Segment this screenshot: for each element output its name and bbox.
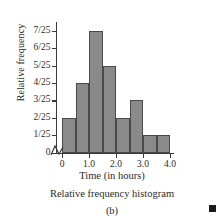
x-tick-mark [89, 153, 90, 158]
x-axis-title: Time (in hours) [0, 170, 224, 181]
figure-caption: Relative frequency histogram [0, 188, 224, 199]
y-tick-label: 4/25 [34, 78, 51, 88]
y-tick-label: 1/25 [34, 130, 51, 140]
histogram-bar [76, 83, 90, 153]
histogram-bar [130, 100, 144, 152]
y-tick-label: 2/25 [34, 113, 51, 123]
y-tick-mark [52, 66, 57, 67]
y-tick-label: 3/25 [34, 96, 51, 106]
x-tick-label: 3.0 [137, 160, 149, 170]
corner-square-marker [209, 205, 216, 212]
x-tick-label: 0 [60, 160, 65, 170]
x-tick-mark [143, 153, 144, 158]
y-tick-mark [52, 83, 57, 84]
histogram-bar [143, 135, 157, 152]
histogram-bar [89, 31, 103, 153]
x-tick-label: 1.0 [83, 160, 95, 170]
x-tick-label: 4.0 [164, 160, 176, 170]
y-tick-mark [52, 48, 57, 49]
y-tick-label: 6/25 [34, 43, 51, 53]
histogram-bar [157, 135, 171, 152]
x-tick-label: 2.0 [110, 160, 122, 170]
plot-area: 01/252/253/254/255/256/257/25 01.02.03.0… [56, 22, 174, 154]
relative-frequency-histogram-figure: Relative frequency 01/252/253/254/255/25… [0, 0, 224, 219]
y-tick-label: 7/25 [34, 26, 51, 36]
axis-break-icon [50, 143, 66, 157]
x-axis-line [56, 153, 174, 154]
panel-label: (b) [0, 205, 224, 216]
y-tick-mark [52, 135, 57, 136]
x-tick-mark [170, 153, 171, 158]
x-tick-mark [116, 153, 117, 158]
y-tick-label: 5/25 [34, 61, 51, 71]
y-tick-mark [52, 100, 57, 101]
y-axis-title: Relative frequency [15, 4, 26, 122]
y-tick-mark [52, 31, 57, 32]
y-tick-mark [52, 118, 57, 119]
histogram-bar [116, 118, 130, 153]
histogram-bar [103, 66, 117, 153]
